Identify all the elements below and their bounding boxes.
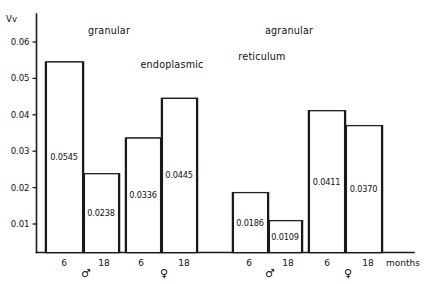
x-axis-title: months [386,258,420,268]
x-axis-ticks: 618♂618♀618♂618♀ [61,258,374,280]
bar-value-label: 0.0336 [129,190,157,200]
sex-symbol-agranular-male: ♂ [265,267,275,280]
bar-value-label: 0.0445 [165,170,193,180]
chart-title-word: endoplasmic [140,59,203,70]
y-axis-ticks: 0.010.020.030.040.050.06 [11,37,37,229]
chart-container: 0.010.020.030.040.050.06 0.05450.02380.0… [0,0,428,284]
chart-title-word: agranular [265,25,313,36]
x-tick-label-age: 18 [178,258,190,268]
sex-symbol-granular-male: ♂ [81,267,91,280]
x-tick-label-age: 6 [61,258,67,268]
chart-title-group: granularagranularendoplasmicreticulum [88,25,313,70]
y-tick-label: 0.04 [11,110,30,120]
bar-value-label: 0.0186 [236,218,264,228]
y-tick-label: 0.05 [11,73,30,83]
y-tick-label: 0.06 [11,37,30,47]
x-tick-label-age: 6 [246,258,252,268]
x-tick-label-age: 18 [362,258,374,268]
bar-value-label: 0.0238 [87,208,115,218]
bar-value-labels: 0.05450.02380.03360.04450.01860.01090.04… [47,62,382,252]
bar-value-label: 0.0109 [271,232,299,242]
sex-symbol-agranular-female: ♀ [344,267,352,280]
x-tick-label-age: 6 [138,258,144,268]
chart-title-word: granular [88,25,130,36]
y-tick-label: 0.01 [11,219,30,229]
bar-value-label: 0.0545 [50,152,78,162]
bar-chart-figure: 0.010.020.030.040.050.06 0.05450.02380.0… [0,0,428,284]
y-tick-label: 0.03 [11,146,30,156]
chart-title-word: reticulum [238,51,285,62]
x-tick-label-age: 6 [324,258,330,268]
sex-symbol-granular-female: ♀ [160,267,168,280]
bar-value-label: 0.0370 [350,184,378,194]
y-axis-title: Vv [6,14,17,24]
bar-value-label: 0.0411 [313,177,341,187]
x-tick-label-age: 18 [98,258,110,268]
y-tick-label: 0.02 [11,183,30,193]
x-tick-label-age: 18 [282,258,294,268]
